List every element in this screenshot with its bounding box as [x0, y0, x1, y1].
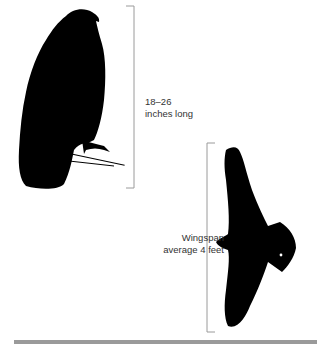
length-value: 18–26: [145, 96, 193, 108]
length-unit: inches long: [145, 108, 193, 120]
wingspan-title: Wingspan: [150, 232, 224, 244]
wingspan-value: average 4 feet: [150, 244, 224, 256]
length-label: 18–26 inches long: [145, 96, 193, 120]
figure-art: [0, 0, 317, 344]
perched-hawk-silhouette: [19, 9, 125, 189]
length-bracket: [126, 6, 134, 188]
flying-hawk-silhouette: [216, 147, 296, 326]
wingspan-label: Wingspan average 4 feet: [150, 232, 224, 256]
bottom-divider: [14, 340, 317, 344]
